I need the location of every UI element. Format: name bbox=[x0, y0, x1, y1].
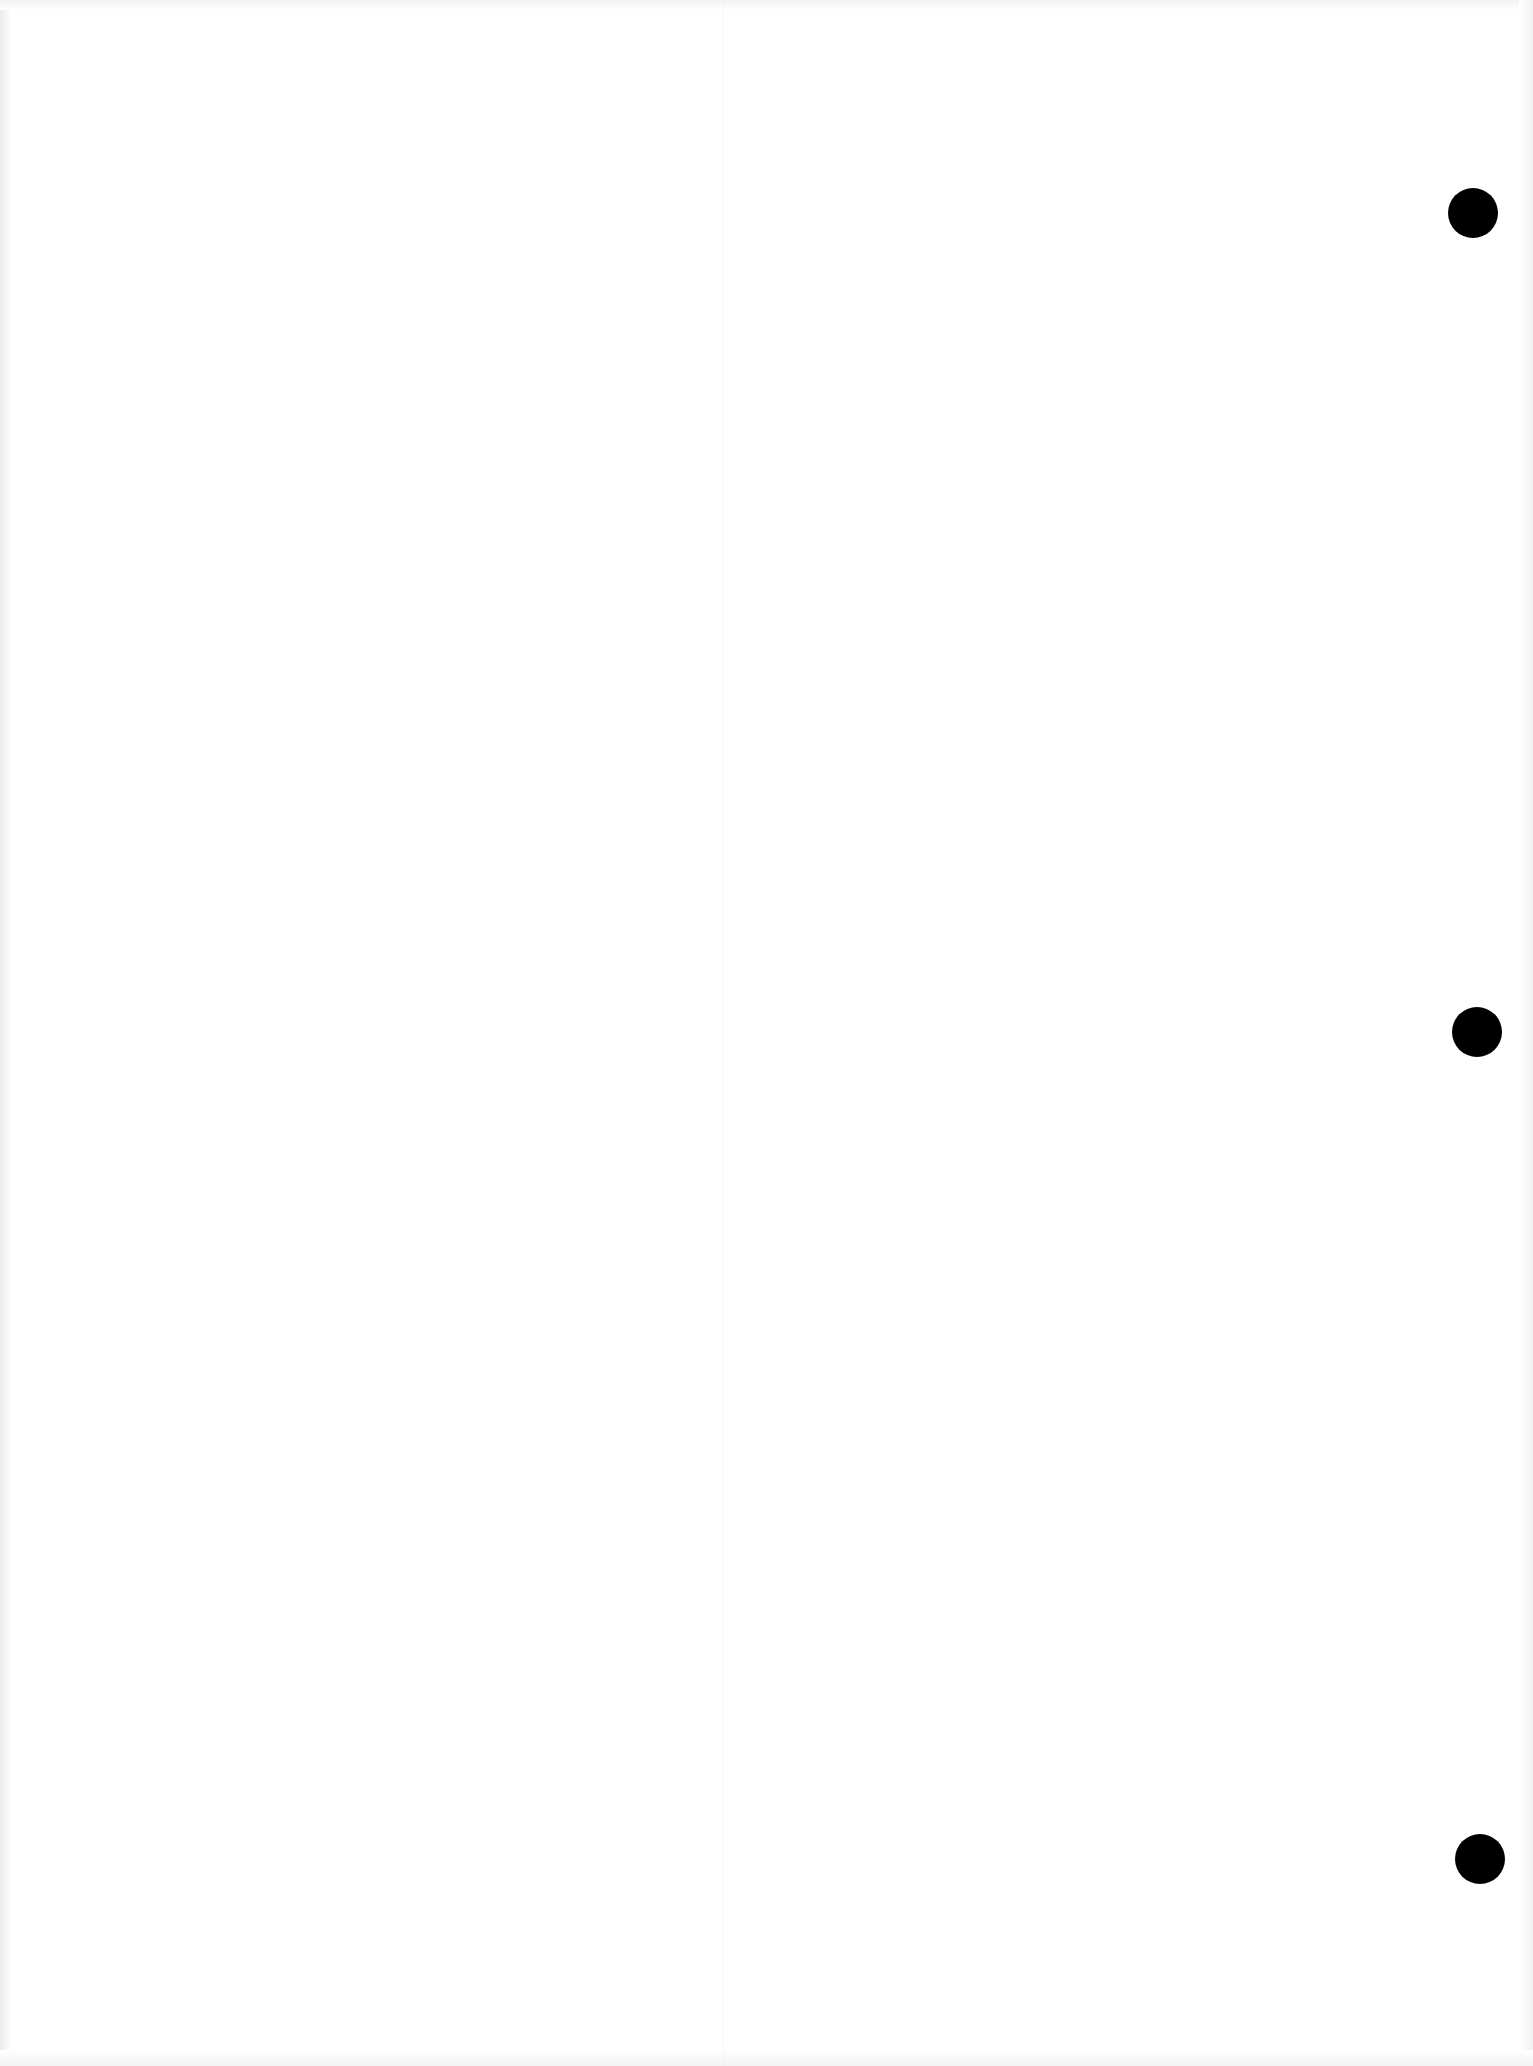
punch-hole-icon bbox=[1452, 1007, 1502, 1057]
fold-line bbox=[723, 0, 724, 2066]
blank-page bbox=[0, 0, 1533, 2066]
punch-hole-icon bbox=[1455, 1834, 1505, 1884]
page-left-edge-shadow bbox=[0, 0, 12, 2066]
page-bottom-edge-shadow bbox=[0, 2050, 1533, 2066]
page-top-edge-shadow bbox=[0, 0, 1533, 10]
punch-hole-icon bbox=[1448, 188, 1498, 238]
page-right-edge-shadow bbox=[1519, 0, 1533, 2066]
